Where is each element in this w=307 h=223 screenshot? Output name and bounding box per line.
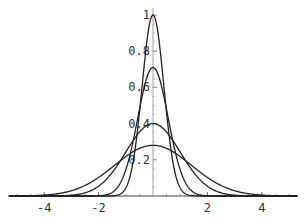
x-tick-label: -4 <box>37 201 51 215</box>
x-tick-label: -2 <box>91 201 105 215</box>
y-tick-label: 0.2 <box>128 153 150 167</box>
x-tick-label: 2 <box>204 201 211 215</box>
chart: -4-2240.20.40.60.81 <box>0 0 307 223</box>
x-tick-label: 4 <box>258 201 265 215</box>
y-tick-label: 0.6 <box>128 80 150 94</box>
y-tick-label: 1 <box>143 8 150 22</box>
plot-area: -4-2240.20.40.60.81 <box>0 0 307 223</box>
